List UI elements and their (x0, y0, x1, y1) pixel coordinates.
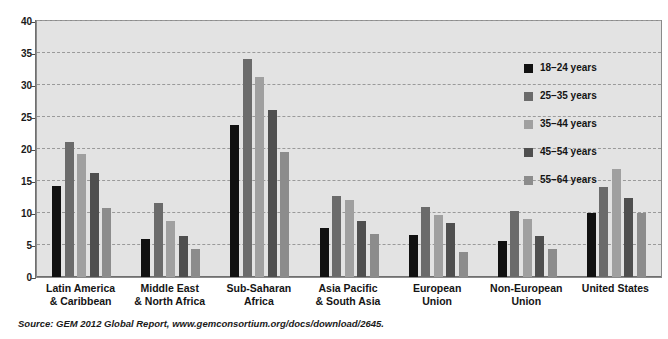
bar-1-2 (166, 221, 175, 277)
bar-6-0 (587, 213, 596, 277)
bar-5-0 (498, 241, 507, 277)
x-label-3-line-0: Asia Pacific (303, 282, 392, 295)
x-axis-label-3: Asia Pacific& South Asia (303, 282, 392, 308)
x-axis-label-0: Latin America& Caribbean (36, 282, 125, 308)
bar-chart-figure: 0510152025303540 18–24 years25–35 years3… (0, 0, 668, 339)
legend-label-0: 18–24 years (540, 63, 597, 73)
bar-2-1 (243, 59, 252, 277)
x-label-4-line-0: European (393, 282, 482, 295)
legend-label-3: 45–54 years (540, 147, 597, 157)
legend-item-0[interactable]: 18–24 years (524, 63, 668, 91)
bar-1-1 (154, 203, 163, 277)
bar-0-1 (65, 142, 74, 277)
legend-swatch-icon-3 (524, 148, 533, 157)
y-axis: 0510152025303540 (0, 12, 36, 292)
bar-5-1 (510, 211, 519, 277)
x-label-1-line-0: Middle East (125, 282, 214, 295)
x-axis-label-1: Middle East& North Africa (125, 282, 214, 308)
legend-label-4: 55–64 years (540, 175, 597, 185)
legend-item-4[interactable]: 55–64 years (524, 175, 668, 203)
bar-6-4 (637, 213, 646, 277)
bar-2-3 (268, 110, 277, 277)
bar-3-1 (332, 196, 341, 277)
bar-2-2 (255, 77, 264, 277)
x-label-6-line-0: United States (571, 282, 660, 295)
bar-4-2 (434, 215, 443, 277)
x-label-3-line-1: & South Asia (303, 295, 392, 308)
bar-2-0 (230, 125, 239, 277)
legend: 18–24 years25–35 years35–44 years45–54 y… (524, 63, 668, 203)
x-axis-label-4: EuropeanUnion (393, 282, 482, 308)
x-axis-label-6: United States (571, 282, 660, 295)
legend-label-1: 25–35 years (540, 91, 597, 101)
bar-5-3 (535, 236, 544, 277)
bar-3-2 (345, 200, 354, 277)
x-label-4-line-1: Union (393, 295, 482, 308)
bar-4-3 (446, 223, 455, 277)
bar-5-2 (523, 219, 532, 277)
x-label-2-line-0: Sub-Saharan (214, 282, 303, 295)
x-label-0-line-0: Latin America (36, 282, 125, 295)
x-label-5-line-1: Union (482, 295, 571, 308)
bar-1-3 (179, 236, 188, 277)
source-text: Source: GEM 2012 Global Report, www.gemc… (18, 318, 384, 329)
bar-3-3 (357, 221, 366, 277)
x-label-1-line-1: & North Africa (125, 295, 214, 308)
bar-4-1 (421, 207, 430, 277)
bar-2-4 (280, 152, 289, 277)
legend-item-2[interactable]: 35–44 years (524, 119, 668, 147)
bar-1-0 (141, 239, 150, 277)
legend-item-1[interactable]: 25–35 years (524, 91, 668, 119)
x-label-2-line-1: Africa (214, 295, 303, 308)
legend-swatch-icon-4 (524, 176, 533, 185)
bar-0-3 (90, 173, 99, 277)
bar-5-4 (548, 249, 557, 277)
bar-1-4 (191, 249, 200, 277)
bar-3-4 (370, 234, 379, 277)
x-label-5-line-0: Non-European (482, 282, 571, 295)
bar-0-0 (52, 186, 61, 277)
legend-item-3[interactable]: 45–54 years (524, 147, 668, 175)
bar-0-2 (77, 154, 86, 277)
x-axis-label-5: Non-EuropeanUnion (482, 282, 571, 308)
x-axis-labels: Latin America& CaribbeanMiddle East& Nor… (36, 282, 662, 314)
bar-4-4 (459, 252, 468, 277)
legend-swatch-icon-1 (524, 92, 533, 101)
legend-swatch-icon-2 (524, 120, 533, 129)
source-note: Source: GEM 2012 Global Report, www.gemc… (18, 318, 384, 329)
x-label-0-line-1: & Caribbean (36, 295, 125, 308)
plot-area: 18–24 years25–35 years35–44 years45–54 y… (36, 20, 662, 278)
bar-3-0 (320, 228, 329, 277)
legend-swatch-icon-0 (524, 64, 533, 73)
bar-6-3 (624, 198, 633, 277)
x-axis-label-2: Sub-SaharanAfrica (214, 282, 303, 308)
legend-label-2: 35–44 years (540, 119, 597, 129)
bar-4-0 (409, 235, 418, 277)
bar-0-4 (102, 208, 111, 277)
